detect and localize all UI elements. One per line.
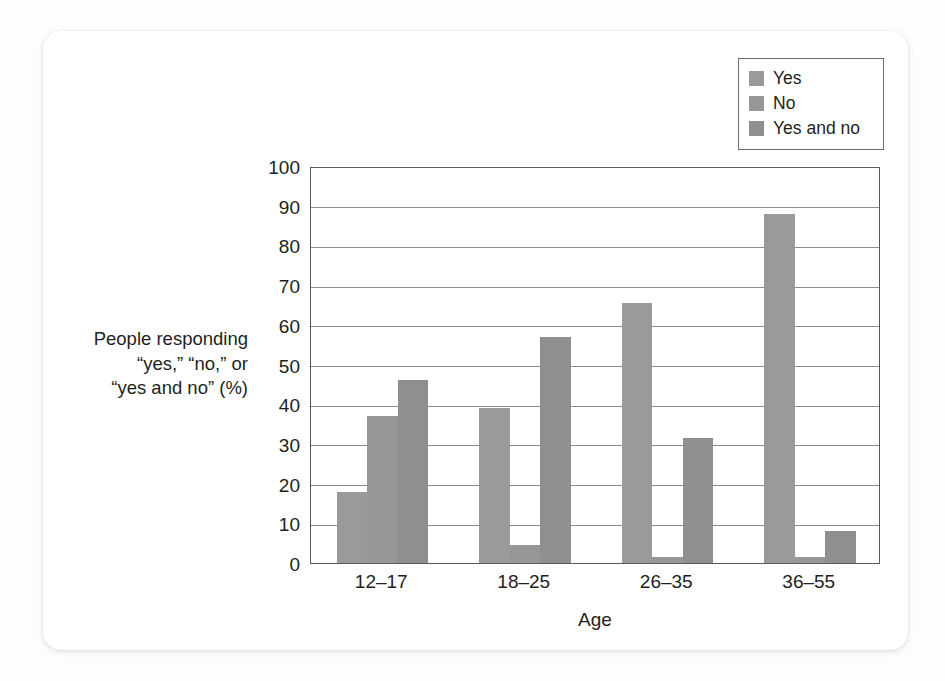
y-axis-tick-label: 30 [254, 435, 300, 454]
bar [337, 492, 368, 563]
legend-swatch-icon-no [749, 96, 764, 111]
bar-group [622, 168, 714, 563]
page-background: Yes No Yes and no People responding “yes… [0, 0, 945, 681]
y-axis-tick-label: 50 [254, 356, 300, 375]
bar [764, 214, 795, 563]
y-axis-tick-label: 10 [254, 515, 300, 534]
y-axis-title-line-1: People responding [53, 327, 248, 352]
y-axis-tick-labels: 0102030405060708090100 [248, 167, 300, 564]
legend-item-yes: Yes [749, 66, 873, 91]
legend-label-yes-and-no: Yes and no [773, 120, 860, 138]
bar-group [479, 168, 571, 563]
bar-chart-figure: Yes No Yes and no People responding “yes… [43, 31, 908, 650]
y-axis-tick-label: 60 [254, 316, 300, 335]
x-axis-title: Age [310, 609, 880, 631]
bar [622, 303, 653, 563]
y-axis-tick-label: 70 [254, 277, 300, 296]
bar [652, 557, 683, 563]
legend-label-no: No [773, 95, 795, 113]
x-axis-tick-label: 18–25 [497, 572, 550, 591]
legend-item-no: No [749, 91, 873, 116]
bars-layer [311, 168, 879, 563]
y-axis-tick-label: 100 [254, 158, 300, 177]
bar-group [764, 168, 856, 563]
x-axis-tick-labels: 12–1718–2526–3536–55 [310, 572, 880, 600]
chart-legend: Yes No Yes and no [738, 58, 884, 150]
y-axis-tick-label: 90 [254, 197, 300, 216]
y-axis-title-line-2: “yes,” “no,” or [53, 352, 248, 377]
bar [479, 408, 510, 563]
y-axis-title: People responding “yes,” “no,” or “yes a… [53, 327, 248, 401]
bar [683, 438, 714, 563]
figure-card: Yes No Yes and no People responding “yes… [43, 31, 908, 650]
y-axis-tick-label: 80 [254, 237, 300, 256]
bar [825, 531, 856, 563]
bar [510, 545, 541, 563]
bar-group [337, 168, 429, 563]
bar [367, 416, 398, 563]
bar [540, 337, 571, 563]
x-axis-tick-label: 12–17 [355, 572, 408, 591]
bar [795, 557, 826, 563]
plot-area [310, 167, 880, 564]
y-axis-title-line-3: “yes and no” (%) [53, 376, 248, 401]
legend-swatch-icon-yes-and-no [749, 121, 764, 136]
legend-item-yes-and-no: Yes and no [749, 116, 873, 141]
x-axis-tick-label: 26–35 [640, 572, 693, 591]
y-axis-tick-label: 40 [254, 396, 300, 415]
x-axis-tick-label: 36–55 [782, 572, 835, 591]
legend-label-yes: Yes [773, 70, 802, 88]
y-axis-tick-label: 0 [254, 555, 300, 574]
y-axis-tick-label: 20 [254, 475, 300, 494]
bar [398, 380, 429, 563]
legend-swatch-icon-yes [749, 71, 764, 86]
